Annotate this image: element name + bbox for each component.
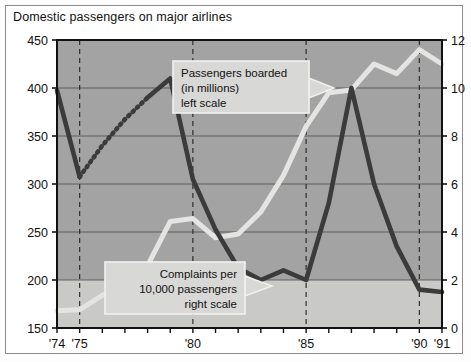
complaints-callout-line-3: right scale	[185, 298, 237, 310]
ytick-label-right-6: 6	[451, 178, 458, 192]
chart-screenshot: Domestic passengers on major airlines 15…	[0, 0, 471, 362]
xtick-label-1991: '91	[434, 337, 450, 351]
xtick-label-1975: '75	[71, 337, 87, 351]
ytick-label-left-250: 250	[27, 226, 48, 240]
chart-canvas: 150200250300350400450024681012'74'75'80'…	[0, 0, 471, 362]
complaints-callout-line-1: Complaints per	[160, 268, 238, 280]
ytick-label-right-4: 4	[451, 226, 458, 240]
xtick-label-1974: '74	[49, 337, 65, 351]
ytick-label-right-2: 2	[451, 274, 458, 288]
passengers-callout-line-1: Passengers boarded	[181, 67, 287, 79]
ytick-label-left-300: 300	[27, 178, 48, 192]
xtick-label-1990: '90	[411, 337, 427, 351]
passengers-callout-line-3: left scale	[181, 97, 226, 109]
ytick-label-right-0: 0	[451, 322, 458, 336]
passengers-callout-line-2: (in millions)	[181, 82, 239, 94]
ytick-label-left-400: 400	[27, 82, 48, 96]
ytick-label-left-200: 200	[27, 274, 48, 288]
xtick-label-1985: '85	[298, 337, 314, 351]
complaints-callout-line-2: 10,000 passengers	[139, 283, 237, 295]
ytick-label-left-450: 450	[27, 34, 48, 48]
ytick-label-right-10: 10	[451, 82, 465, 96]
ytick-label-right-12: 12	[451, 34, 465, 48]
ytick-label-left-350: 350	[27, 130, 48, 144]
xtick-label-1980: '80	[185, 337, 201, 351]
ytick-label-left-150: 150	[27, 322, 48, 336]
ytick-label-right-8: 8	[451, 130, 458, 144]
